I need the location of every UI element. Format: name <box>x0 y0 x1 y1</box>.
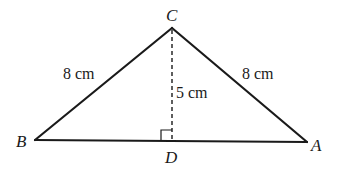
measurement-ca: 8 cm <box>242 65 274 82</box>
right-angle-marker <box>161 130 172 141</box>
measurement-cd: 5 cm <box>176 84 208 101</box>
triangle-diagram: C B A D 8 cm 8 cm 5 cm <box>0 0 342 180</box>
vertex-label-b: B <box>16 132 27 151</box>
vertex-label-a: A <box>310 136 322 155</box>
side-ba <box>35 140 307 142</box>
vertex-label-c: C <box>166 6 178 25</box>
triangle-svg: C B A D 8 cm 8 cm 5 cm <box>0 0 342 180</box>
side-cb <box>35 28 172 140</box>
measurement-cb: 8 cm <box>63 65 95 82</box>
vertex-label-d: D <box>164 148 178 167</box>
